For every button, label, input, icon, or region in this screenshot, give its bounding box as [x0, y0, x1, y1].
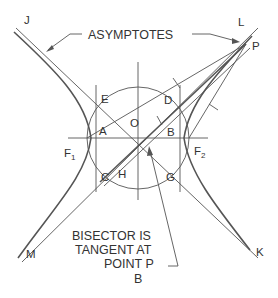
- label-B: B: [167, 126, 175, 138]
- bisector-callout-line-2: TANGENT AT: [75, 243, 152, 257]
- label-H: H: [118, 168, 126, 180]
- label-J: J: [24, 14, 30, 26]
- bisector-callout-line-3: POINT P: [104, 257, 154, 271]
- label-F2: F2: [194, 145, 206, 160]
- label-A: A: [99, 125, 107, 137]
- tick-mark: [157, 116, 162, 125]
- hyperbola-left-branch: [14, 32, 91, 258]
- focal-line-F1-P: [87, 44, 246, 138]
- label-M: M: [26, 248, 36, 260]
- label-L: L: [238, 16, 245, 28]
- tangent-bisector: [100, 44, 246, 182]
- label-D: D: [164, 94, 172, 106]
- label-G: G: [166, 171, 175, 183]
- hyperbola-diagram: J L P M K E D O A B C H G F1 F2 ASYMPTOT…: [0, 0, 278, 298]
- label-O: O: [130, 117, 139, 129]
- arrowhead: [232, 38, 240, 44]
- asymptotes-callout: ASYMPTOTES: [88, 28, 173, 42]
- label-K: K: [256, 246, 264, 258]
- asymptotes-leader-right: [192, 34, 236, 41]
- tangent-bisector-parallel: [104, 48, 250, 186]
- focal-line-F2-P: [189, 44, 246, 138]
- label-E: E: [101, 93, 109, 105]
- tick-mark: [209, 104, 218, 110]
- label-F1: F1: [64, 147, 76, 162]
- label-P: P: [252, 40, 260, 52]
- bisector-callout-line-1: BISECTOR IS: [72, 229, 151, 243]
- bisector-leader: [150, 150, 178, 266]
- label-C: C: [101, 171, 109, 183]
- asymptote-J-K: [16, 28, 258, 258]
- arrowhead: [147, 146, 153, 156]
- figure-label: B: [134, 272, 142, 286]
